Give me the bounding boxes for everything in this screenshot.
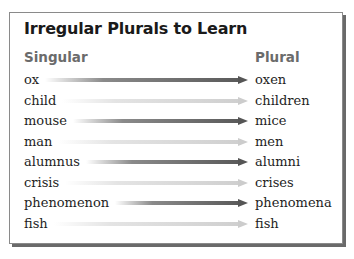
arrow-right-icon xyxy=(54,220,248,228)
arrow-shaft xyxy=(86,160,239,164)
list-item: phenomenonphenomena xyxy=(10,194,340,214)
arrow-head xyxy=(238,179,248,187)
list-item: mousemice xyxy=(10,112,340,132)
plural-word: oxen xyxy=(255,71,286,89)
list-item: childchildren xyxy=(10,92,340,112)
plural-word: men xyxy=(255,133,283,151)
list-item: oxoxen xyxy=(10,71,340,91)
arrow-shaft xyxy=(65,181,239,185)
column-header-singular: Singular xyxy=(24,49,88,65)
arrow-shaft xyxy=(115,201,239,205)
plural-word: phenomena xyxy=(255,194,332,212)
arrow-right-icon xyxy=(65,179,248,187)
arrow-shaft xyxy=(73,119,239,123)
plural-word: fish xyxy=(255,215,279,233)
arrow-right-icon xyxy=(86,158,248,166)
arrow-head xyxy=(238,76,248,84)
arrow-right-icon xyxy=(58,138,248,146)
column-header-plural: Plural xyxy=(255,49,300,65)
arrow-head xyxy=(238,97,248,105)
singular-word: man xyxy=(24,133,52,151)
singular-word: alumnus xyxy=(24,153,80,171)
arrow-right-icon xyxy=(73,117,248,125)
arrow-head xyxy=(238,117,248,125)
plural-word: mice xyxy=(255,112,286,130)
arrow-shaft xyxy=(58,140,239,144)
singular-word: crisis xyxy=(24,174,59,192)
arrow-right-icon xyxy=(62,97,248,105)
plurals-panel: Irregular Plurals to Learn Singular Plur… xyxy=(9,12,343,244)
arrow-right-icon xyxy=(115,199,248,207)
singular-word: fish xyxy=(24,215,48,233)
singular-word: child xyxy=(24,92,56,110)
arrow-shaft xyxy=(45,78,239,82)
list-item: fishfish xyxy=(10,215,340,235)
arrow-shaft xyxy=(54,222,239,226)
singular-word: mouse xyxy=(24,112,67,130)
arrow-right-icon xyxy=(45,76,248,84)
singular-word: phenomenon xyxy=(24,194,109,212)
arrow-shaft xyxy=(62,99,239,103)
list-item: crisiscrises xyxy=(10,174,340,194)
arrow-head xyxy=(238,220,248,228)
panel-title: Irregular Plurals to Learn xyxy=(24,19,247,38)
list-item: alumnusalumni xyxy=(10,153,340,173)
list-item: manmen xyxy=(10,133,340,153)
arrow-head xyxy=(238,158,248,166)
plural-word: alumni xyxy=(255,153,300,171)
singular-word: ox xyxy=(24,71,39,89)
arrow-head xyxy=(238,199,248,207)
plural-word: crises xyxy=(255,174,294,192)
arrow-head xyxy=(238,138,248,146)
plural-word: children xyxy=(255,92,310,110)
